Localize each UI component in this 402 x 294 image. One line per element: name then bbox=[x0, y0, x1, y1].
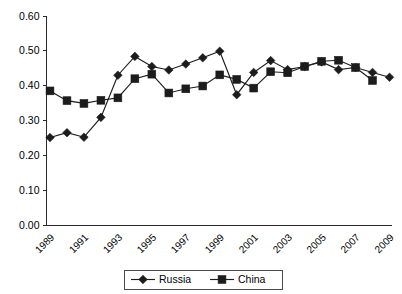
legend-label-china: China bbox=[238, 273, 266, 285]
data-point-marker bbox=[334, 65, 343, 74]
data-point-marker bbox=[368, 68, 377, 77]
x-tick-label: 1995 bbox=[135, 231, 159, 255]
data-point-marker bbox=[46, 87, 54, 95]
x-tick-label: 1997 bbox=[169, 231, 193, 255]
y-tick-label: 0.50 bbox=[19, 44, 40, 56]
data-point-marker bbox=[266, 56, 275, 65]
data-point-marker bbox=[352, 64, 360, 72]
y-tick-label: 0.20 bbox=[19, 149, 40, 161]
x-tick-label: 1993 bbox=[101, 231, 125, 255]
data-point-marker bbox=[131, 75, 139, 83]
y-tick-label: 0.30 bbox=[19, 114, 40, 126]
x-tick-label: 2009 bbox=[372, 231, 396, 255]
data-point-marker bbox=[216, 71, 224, 79]
chart-container: 0.600.500.400.300.200.100.00 19891991199… bbox=[0, 0, 402, 294]
y-axis-ticks: 0.600.500.400.300.200.100.00 bbox=[19, 10, 46, 231]
data-point-marker bbox=[148, 62, 157, 71]
x-tick-label: 2007 bbox=[338, 231, 362, 255]
data-point-marker bbox=[284, 69, 292, 77]
data-point-marker bbox=[97, 96, 105, 104]
x-tick-label: 2003 bbox=[271, 231, 295, 255]
data-point-marker bbox=[267, 68, 275, 76]
data-point-marker bbox=[148, 70, 156, 78]
data-point-marker bbox=[215, 47, 224, 56]
data-point-marker bbox=[233, 75, 241, 83]
legend-label-russia: Russia bbox=[159, 273, 191, 285]
x-tick-label: 1991 bbox=[67, 231, 91, 255]
data-point-marker bbox=[385, 73, 394, 82]
data-point-marker bbox=[250, 84, 258, 92]
series-layer bbox=[46, 47, 394, 142]
x-axis-tick-labels: 1989199119931995199719992001200320052007… bbox=[33, 231, 396, 255]
data-point-marker bbox=[114, 94, 122, 102]
legend-marker-square bbox=[218, 276, 226, 284]
y-tick-label: 0.60 bbox=[19, 10, 40, 22]
y-tick-label: 0.00 bbox=[19, 219, 40, 231]
y-tick-label: 0.40 bbox=[19, 79, 40, 91]
data-point-marker bbox=[198, 54, 207, 63]
data-point-marker bbox=[369, 77, 377, 85]
line-chart: 0.600.500.400.300.200.100.00 19891991199… bbox=[0, 0, 402, 294]
chart-legend: RussiaChina bbox=[124, 270, 282, 289]
x-tick-label: 1999 bbox=[203, 231, 227, 255]
y-tick-label: 0.10 bbox=[19, 184, 40, 196]
x-tick-label: 1989 bbox=[33, 231, 57, 255]
data-point-marker bbox=[165, 89, 173, 97]
x-tick-label: 2001 bbox=[237, 231, 261, 255]
data-point-marker bbox=[318, 57, 326, 65]
data-point-marker bbox=[63, 128, 72, 137]
data-point-marker bbox=[199, 82, 207, 90]
data-point-marker bbox=[80, 100, 88, 108]
data-point-marker bbox=[301, 63, 309, 71]
x-tick-label: 2005 bbox=[305, 231, 329, 255]
data-point-marker bbox=[335, 56, 343, 64]
data-point-marker bbox=[182, 85, 190, 93]
data-point-marker bbox=[165, 66, 174, 75]
data-point-marker bbox=[182, 60, 191, 69]
data-point-marker bbox=[63, 97, 71, 105]
